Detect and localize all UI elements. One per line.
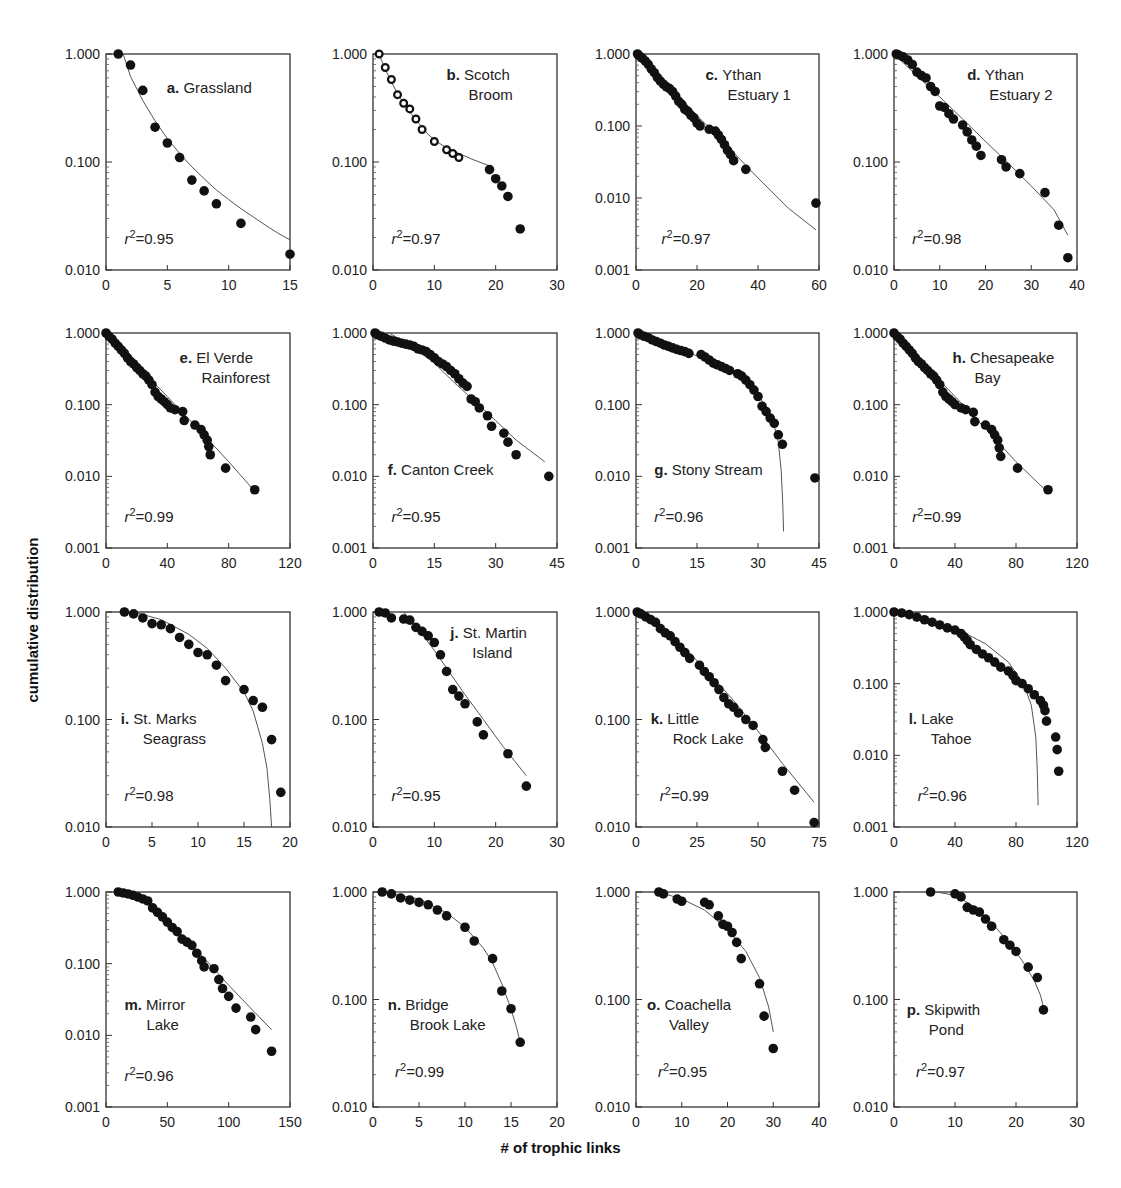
panel-j: 01020300.0100.1001.000j. St. MartinIslan… (332, 604, 565, 850)
data-point (475, 403, 485, 413)
small-multiples-plot-grid: 0510150.0100.1001.000a. Grasslandr2=0.95… (0, 0, 1121, 1188)
panel-k: 02550750.0100.1001.000k. LittleRock Lake… (595, 604, 827, 850)
figure: 0510150.0100.1001.000a. Grasslandr2=0.95… (0, 0, 1121, 1188)
r-squared-label: r2=0.95 (391, 506, 440, 525)
panel-title-line2: Rock Lake (673, 730, 744, 747)
data-point (956, 892, 966, 902)
data-point (138, 613, 148, 623)
data-point (377, 887, 387, 897)
panel-title: h. Chesapeake (953, 349, 1055, 366)
x-tick-label: 5 (163, 277, 171, 293)
y-tick-label: 0.010 (332, 468, 367, 484)
data-point (926, 887, 936, 897)
y-tick-label: 0.100 (65, 956, 100, 972)
data-point (224, 992, 234, 1002)
x-tick-label: 120 (1065, 555, 1089, 571)
data-point (515, 1037, 525, 1047)
data-point (741, 165, 751, 175)
x-tick-label: 40 (811, 1114, 827, 1130)
data-point (506, 1004, 516, 1014)
data-point (175, 633, 185, 643)
y-tick-label: 0.010 (332, 1099, 367, 1115)
panel-i: 051015200.0100.1001.000i. St. MarksSeagr… (65, 604, 298, 850)
x-tick-label: 60 (811, 277, 827, 293)
data-point (285, 249, 295, 259)
data-point (214, 975, 224, 985)
data-point (714, 911, 724, 921)
panel-p: 01020300.0100.1001.000p. SkipwithPondr2=… (853, 884, 1085, 1130)
x-tick-label: 150 (278, 1114, 302, 1130)
y-tick-label: 1.000 (853, 46, 888, 62)
y-tick-label: 0.001 (595, 540, 630, 556)
data-point (1040, 706, 1050, 716)
panel-f: 01530450.0010.0100.1001.000f. Canton Cre… (332, 325, 565, 571)
data-point (199, 962, 209, 972)
data-point (768, 1044, 778, 1054)
data-point (810, 473, 820, 483)
data-point (147, 619, 157, 629)
data-point (179, 416, 189, 426)
data-point (460, 922, 470, 932)
data-point (126, 60, 136, 70)
y-axis-label-text: cumulative distribution (24, 537, 41, 702)
x-tick-label: 10 (932, 277, 948, 293)
x-tick-label: 30 (549, 834, 565, 850)
data-point (761, 743, 771, 753)
data-point (150, 122, 160, 132)
x-tick-label: 75 (811, 834, 827, 850)
y-tick-label: 1.000 (853, 604, 888, 620)
data-point (714, 685, 724, 695)
y-tick-label: 1.000 (853, 884, 888, 900)
x-tick-label: 10 (427, 834, 443, 850)
y-tick-label: 0.100 (853, 676, 888, 692)
panel-g: 01530450.0010.0100.1001.000g. Stony Stre… (595, 325, 827, 571)
panel-title: d. Ythan (967, 66, 1024, 83)
fit-curve (937, 892, 1044, 1007)
data-point (462, 382, 472, 392)
data-point (483, 411, 493, 421)
data-point (1054, 220, 1064, 230)
y-tick-label: 0.001 (65, 1099, 100, 1115)
y-tick-label: 0.001 (595, 262, 630, 278)
x-tick-label: 45 (549, 555, 565, 571)
panel-title: n. Bridge (388, 996, 449, 1013)
panel-title-line2: Pond (929, 1021, 964, 1038)
x-tick-label: 30 (750, 555, 766, 571)
y-tick-label: 0.100 (853, 397, 888, 413)
x-tick-label: 80 (1008, 834, 1024, 850)
data-point (497, 986, 507, 996)
data-point (732, 938, 742, 948)
panel-title: m. Mirror (124, 996, 185, 1013)
data-point (414, 898, 424, 908)
data-point (1054, 766, 1064, 776)
data-point (218, 984, 228, 994)
data-point (515, 224, 525, 234)
x-tick-label: 40 (1069, 277, 1085, 293)
data-point (433, 905, 443, 915)
panel-title: e. El Verde (180, 349, 253, 366)
y-tick-label: 0.100 (595, 118, 630, 134)
data-point (388, 76, 395, 83)
r-squared-label: r2=0.99 (660, 785, 709, 804)
r-squared-label: r2=0.99 (124, 506, 173, 525)
data-point (962, 127, 972, 137)
data-point (248, 696, 258, 706)
fit-curve (636, 612, 814, 802)
panel-title: g. Stony Stream (654, 461, 762, 478)
x-tick-label: 120 (278, 555, 302, 571)
data-point (1052, 745, 1062, 755)
y-tick-label: 0.010 (595, 468, 630, 484)
data-point (996, 452, 1006, 462)
data-point (129, 609, 139, 619)
data-point (231, 1003, 241, 1013)
data-point (163, 138, 173, 148)
x-axis-label: # of trophic links (0, 1139, 1121, 1156)
x-tick-label: 15 (236, 834, 252, 850)
x-tick-label: 15 (427, 555, 443, 571)
data-point (376, 51, 383, 58)
data-point (790, 785, 800, 795)
data-point (1063, 253, 1073, 263)
r-squared-label: r2=0.96 (918, 785, 967, 804)
data-point (488, 954, 498, 964)
panel-o: 0102030400.0100.1001.000o. CoachellaVall… (595, 884, 827, 1130)
